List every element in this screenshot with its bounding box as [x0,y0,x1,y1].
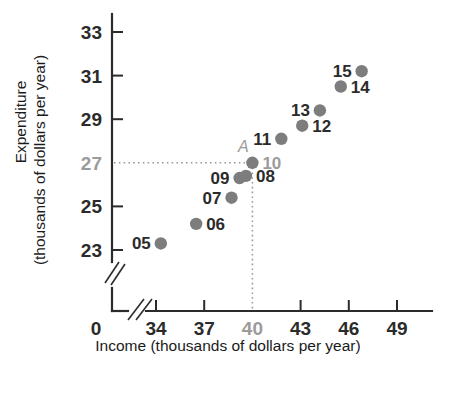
data-point-label-12: 12 [312,117,331,136]
x-axis-title: Income (thousands of dollars per year) [95,337,360,354]
y-tick-label-27: 27 [81,153,102,174]
data-point-label-15: 15 [333,62,352,81]
y-tick-label-23: 23 [81,240,102,261]
x-tick-label-34: 34 [145,318,167,339]
data-point-13 [314,104,326,116]
axis-ticks [112,32,397,311]
data-point-05 [155,237,167,249]
axis-titles: Income (thousands of dollars per year)Ex… [12,55,361,354]
y-tick-label-25: 25 [81,196,103,217]
data-point-label-05: 05 [132,234,151,253]
x-tick-label-49: 49 [386,318,407,339]
x-tick-label-37: 37 [194,318,215,339]
y-tick-label-33: 33 [81,22,102,43]
plot-area: 2325272931333437404346490 05060708091011… [0,0,456,399]
y-tick-label-31: 31 [81,66,103,87]
data-point-label-14: 14 [351,78,370,97]
y-axis-title-line-2: (thousands of dollars per year) [31,55,48,265]
data-points [155,65,368,250]
data-point-label-06: 06 [206,215,225,234]
x-tick-label-40: 40 [242,318,263,339]
x-tick-label-43: 43 [290,318,311,339]
data-point-label-09: 09 [211,169,230,188]
annotation-a: A [237,138,249,155]
data-point-07 [225,191,237,203]
data-point-11 [275,133,287,145]
data-point-label-13: 13 [291,101,310,120]
data-point-label-07: 07 [203,189,222,208]
data-point-label-11: 11 [253,130,271,149]
x-axis-break-mark-1 [128,299,144,320]
x-tick-label-46: 46 [338,318,359,339]
x-axis-break-mark-2 [136,299,152,320]
y-axis-title-line-1: Expenditure [12,81,29,164]
data-point-14 [335,80,347,92]
data-point-06 [190,218,202,230]
axis-origin-label: 0 [91,318,102,339]
y-axis-break-mark-2 [111,264,125,285]
data-point-15 [355,65,367,77]
scatter-chart: 2325272931333437404346490 05060708091011… [0,0,456,399]
annotation-label-a: A [237,138,249,155]
y-tick-label-29: 29 [81,109,102,130]
y-axis-break-mark-1 [105,262,119,283]
data-point-09 [233,172,245,184]
data-point-label-10: 10 [262,154,281,173]
data-point-12 [296,120,308,132]
